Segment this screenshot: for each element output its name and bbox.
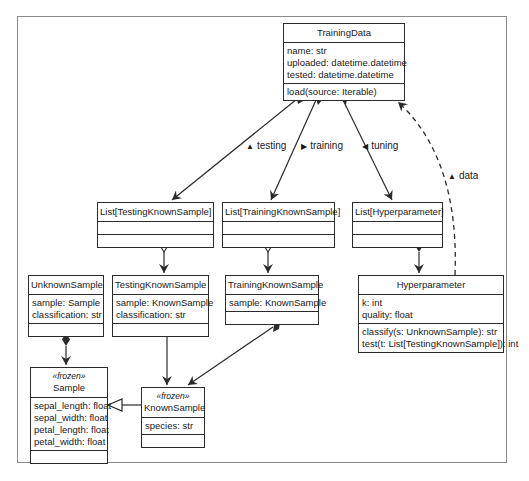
attributes-section: k: int quality: float (359, 295, 503, 324)
class-name: List[TestingKnownSample] (98, 203, 213, 222)
class-name: List[Hyperparameter] (353, 203, 442, 222)
class-training-data: TrainingData name: str uploaded: datetim… (283, 23, 405, 101)
stereotype: «frozen» (144, 391, 202, 402)
class-unknown-sample: UnknownSample sample: Sample classificat… (28, 275, 104, 337)
attribute: sample: KnownSample (116, 297, 205, 309)
stereotype: «frozen» (33, 371, 105, 382)
attribute: k: int (362, 297, 500, 309)
methods-section (223, 235, 334, 247)
class-name: Sample (53, 382, 85, 393)
attribute: sepal_length: float (34, 400, 104, 412)
class-name: UnknownSample (29, 276, 103, 295)
class-name: TrainingData (284, 24, 404, 43)
attribute: petal_length: float (34, 424, 104, 436)
methods-section (98, 235, 213, 247)
class-name: KnownSample (144, 402, 205, 413)
attributes-section (98, 222, 213, 235)
class-list-testing: List[TestingKnownSample] (97, 202, 214, 248)
attribute: classification: str (116, 309, 205, 321)
attributes-section: species: str (142, 418, 204, 435)
unknown-sample-composition (62, 333, 70, 365)
methods-section (31, 451, 107, 463)
class-header: «frozen» Sample (31, 368, 107, 398)
attribute: petal_width: float (34, 436, 104, 448)
attributes-section (353, 222, 442, 235)
tuning-label: ◀tuning (362, 140, 398, 151)
training-label: ▶training (301, 140, 343, 151)
attribute: name: str (287, 45, 401, 57)
class-name: TrainingKnownSample (226, 276, 318, 295)
direction-triangle-icon: ◀ (362, 142, 368, 151)
direction-triangle-icon: ▶ (301, 142, 307, 151)
class-name: Hyperparameter (359, 276, 503, 295)
attributes-section (223, 222, 334, 235)
methods-section: classify(s: UnknownSample): str test(t: … (359, 324, 503, 352)
direction-triangle-icon: ▲ (448, 172, 456, 181)
methods-section (353, 235, 442, 247)
method: test(t: List[TestingKnownSample]): int (362, 338, 500, 350)
method: load(source: Iterable) (287, 86, 401, 98)
class-training-known-sample: TrainingKnownSample sample: KnownSample (225, 275, 319, 325)
attribute: sample: Sample (32, 297, 100, 309)
attributes-section: sample: Sample classification: str (29, 295, 103, 324)
methods-section: load(source: Iterable) (284, 84, 404, 100)
attribute: species: str (145, 420, 201, 432)
attribute: tested: datetime.datetime (287, 69, 401, 81)
data-label: ▲data (448, 170, 478, 181)
class-header: «frozen» KnownSample (142, 388, 204, 418)
testing-label: ▲testing (246, 140, 286, 151)
attribute: quality: float (362, 309, 500, 321)
class-name: TestingKnownSample (113, 276, 208, 295)
attributes-section: sepal_length: float sepal_width: float p… (31, 398, 107, 451)
known-sample-generalization (108, 399, 141, 411)
attribute: classification: str (32, 309, 100, 321)
class-list-training: List[TrainingKnownSample] (222, 202, 335, 248)
attribute: sample: KnownSample (229, 297, 315, 309)
class-name: List[TrainingKnownSample] (223, 203, 334, 222)
methods-section (113, 324, 208, 336)
class-known-sample: «frozen» KnownSample species: str (141, 387, 205, 448)
attributes-section: name: str uploaded: datetime.datetime te… (284, 43, 404, 84)
attributes-section: sample: KnownSample (226, 295, 318, 312)
attribute: sepal_width: float (34, 412, 104, 424)
attribute: uploaded: datetime.datetime (287, 57, 401, 69)
class-sample: «frozen» Sample sepal_length: float sepa… (30, 367, 108, 464)
attributes-section: sample: KnownSample classification: str (113, 295, 208, 324)
methods-section (29, 324, 103, 336)
data-dependency (398, 102, 455, 275)
direction-triangle-icon: ▲ (246, 142, 254, 151)
class-list-hyperparameter: List[Hyperparameter] (352, 202, 443, 248)
class-hyperparameter: Hyperparameter k: int quality: float cla… (358, 275, 504, 353)
method: classify(s: UnknownSample): str (362, 326, 500, 338)
class-testing-known-sample: TestingKnownSample sample: KnownSample c… (112, 275, 209, 337)
methods-section (226, 312, 318, 324)
methods-section (142, 435, 204, 447)
